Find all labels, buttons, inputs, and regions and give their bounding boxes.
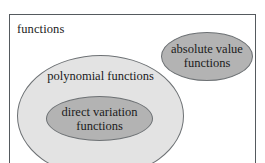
set-absolute-value-functions: absolute value functions xyxy=(161,32,253,81)
diagram-canvas: functions polynomial functions direct va… xyxy=(0,0,265,163)
set-label-polynomial-functions: polynomial functions xyxy=(18,69,183,83)
set-direct-variation-functions: direct variation functions xyxy=(46,96,153,141)
universe-label: functions xyxy=(17,22,64,37)
set-label-direct-variation-functions: direct variation functions xyxy=(47,105,152,133)
set-label-absolute-value-functions: absolute value functions xyxy=(162,42,252,70)
